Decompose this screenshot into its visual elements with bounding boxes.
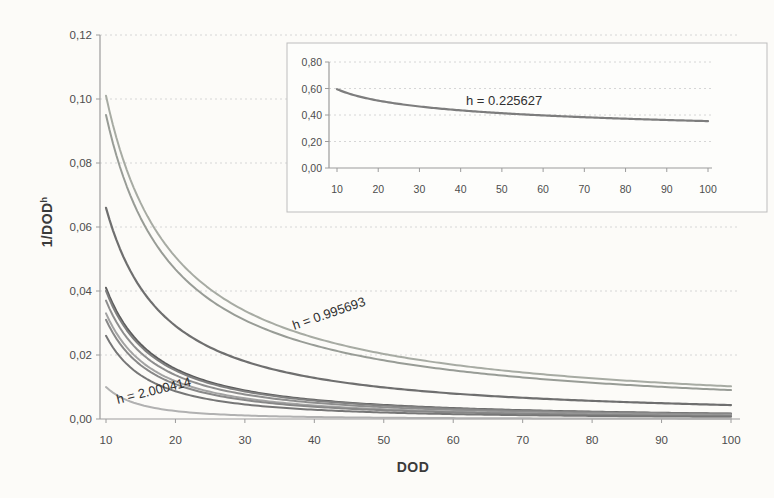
y-tick-label: 0,06 [70,221,92,233]
x-tick-label: 80 [620,183,632,195]
curve-annotation: h = 2.000414 [115,374,193,407]
x-tick-label: 30 [238,434,251,446]
x-tick-label: 80 [586,434,599,446]
curve-h-1.3872 [106,288,731,414]
y-tick-label: 0,12 [70,29,92,41]
y-tick-label: 0,02 [70,349,92,361]
x-tick-label: 40 [308,434,321,446]
x-tick-label: 20 [169,434,182,446]
x-tick-label: 100 [721,434,740,446]
x-tick-label: 60 [537,183,549,195]
y-tick-label: 0,10 [70,93,92,105]
x-tick-label: 60 [447,434,460,446]
x-tick-label: 20 [372,183,384,195]
y-tick-label: 0,00 [70,413,92,425]
x-tick-label: 30 [414,183,426,195]
y-tick-label: 0,60 [302,83,323,95]
x-tick-label: 50 [496,183,508,195]
curve-annotation: h = 0.995693 [290,294,367,333]
y-tick-label: 0,20 [302,136,323,148]
curve-h-1.585 [106,336,731,417]
figure-canvas: 0,000,020,040,060,080,100,12102030405060… [0,0,774,498]
x-tick-label: 90 [655,434,668,446]
x-tick-label: 70 [516,434,529,446]
y-tick-label: 0,80 [302,56,323,68]
y-tick-label: 0,08 [70,157,92,169]
x-tick-label: 70 [578,183,590,195]
x-tick-label: 90 [661,183,673,195]
inset-chart: 0,000,200,400,600,8010203040506070809010… [287,43,767,212]
x-tick-label: 10 [100,434,113,446]
curve-h-1.3979 [106,291,731,414]
curve-annotation: h = 0.225627 [466,93,542,108]
x-tick-label: 50 [377,434,390,446]
inset-frame [287,43,767,212]
y-axis-title-base: 1/DOD [39,203,55,248]
figure: 0,000,020,040,060,080,100,12102030405060… [0,0,774,498]
y-tick-label: 0,40 [302,109,323,121]
y-axis-title-superscript: h [39,197,49,203]
y-tick-label: 0,04 [70,285,93,297]
y-axis-title: 1/DODh [39,197,55,248]
x-axis-title: DOD [397,459,429,475]
curve-h-1.4815 [106,313,731,415]
x-tick-label: 40 [455,183,467,195]
y-tick-label: 0,00 [302,162,323,174]
curve-h-1.1805 [106,208,731,405]
x-tick-label: 10 [331,183,343,195]
x-tick-label: 100 [699,183,717,195]
